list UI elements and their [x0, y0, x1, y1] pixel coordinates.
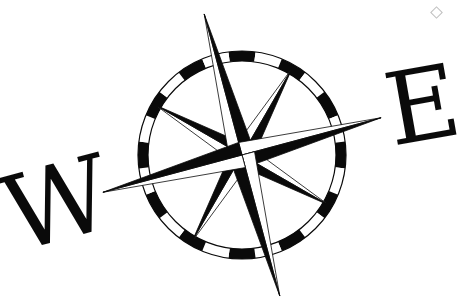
ring-segment — [228, 248, 255, 259]
ring-segment — [335, 141, 346, 168]
ring-segment — [299, 212, 324, 237]
ring-segment — [159, 212, 184, 237]
ring-segment — [138, 141, 149, 168]
ring-segment — [159, 72, 184, 97]
ring-segment — [228, 51, 255, 62]
ring-segment — [299, 72, 324, 97]
